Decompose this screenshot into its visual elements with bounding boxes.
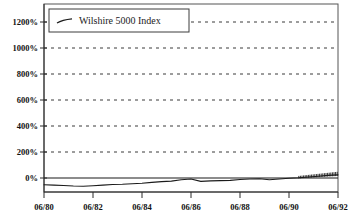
x-tick-label-0682: 06/82	[83, 202, 102, 212]
x-tick-label-0684: 06/84	[132, 202, 152, 212]
y-tick-label-1000: 1000%	[13, 43, 39, 53]
x-tick-label-0688: 06/88	[230, 202, 249, 212]
y-tick-label-600: 600%	[17, 95, 38, 105]
line-chart: 1200% 1000% 800% 600% 400% 200% 0% 06/80…	[0, 0, 357, 222]
gridlines	[44, 22, 338, 152]
y-tick-label-1200: 1200%	[13, 17, 39, 27]
series-line-wilshire-5000-index	[44, 175, 338, 186]
x-tick-label-0680: 06/80	[34, 202, 53, 212]
legend: Wilshire 5000 Index	[49, 9, 189, 32]
y-tick-labels: 1200% 1000% 800% 600% 400% 200% 0%	[13, 17, 39, 183]
x-tick-marks	[44, 192, 338, 198]
y-tick-label-800: 800%	[17, 69, 38, 79]
x-tick-label-0692: 06/92	[328, 202, 347, 212]
chart-container: 1200% 1000% 800% 600% 400% 200% 0% 06/80…	[0, 0, 357, 222]
x-tick-labels: 06/80 06/82 06/84 06/86 06/88 06/90 06/9…	[34, 202, 347, 212]
x-tick-label-0686: 06/86	[181, 202, 200, 212]
y-tick-label-400: 400%	[17, 121, 38, 131]
y-tick-label-0: 0%	[25, 173, 38, 183]
y-tick-label-200: 200%	[17, 147, 38, 157]
x-tick-label-0690: 06/90	[279, 202, 298, 212]
legend-label-wilshire-5000-index: Wilshire 5000 Index	[79, 15, 161, 26]
